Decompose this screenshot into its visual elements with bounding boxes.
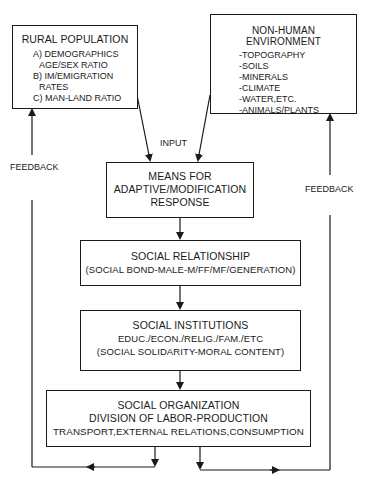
rural-item: A) DEMOGRAPHICS xyxy=(19,49,131,60)
feedback-label-right: FEEDBACK xyxy=(305,178,354,200)
rural-item: RATES xyxy=(19,82,131,93)
environment-item: -TOPOGRAPHY xyxy=(215,50,352,61)
means-line: MEANS FOR xyxy=(109,170,251,183)
rural-item: C) MAN-LAND RATIO xyxy=(19,93,131,104)
means-box: MEANS FOR ADAPTIVE/MODIFICATION RESPONSE xyxy=(106,162,254,218)
means-line: ADAPTIVE/MODIFICATION xyxy=(109,183,251,196)
non-human-environment-box: NON-HUMAN ENVIRONMENT -TOPOGRAPHY -SOILS… xyxy=(210,14,357,114)
input-arrow-environment xyxy=(198,95,210,160)
social-organization-line: TRANSPORT,EXTERNAL RELATIONS,CONSUMPTION xyxy=(49,425,308,438)
input-label: INPUT xyxy=(160,138,187,148)
environment-item: -ANIMALS/PLANTS xyxy=(215,105,352,116)
rural-item: B) IM/EMIGRATION xyxy=(19,71,131,82)
social-institutions-line: EDUC./ECON./RELIG./FAM./ETC xyxy=(83,332,298,345)
rural-population-box: RURAL POPULATION A) DEMOGRAPHICS AGE/SEX… xyxy=(12,25,138,109)
social-organization-line: DIVISION OF LABOR-PRODUCTION xyxy=(49,412,308,425)
environment-title: NON-HUMAN ENVIRONMENT xyxy=(215,25,352,47)
social-institutions-box: SOCIAL INSTITUTIONS EDUC./ECON./RELIG./F… xyxy=(80,310,301,371)
social-relationship-box: SOCIAL RELATIONSHIP (SOCIAL BOND-MALE-M/… xyxy=(80,240,301,286)
social-organization-line: SOCIAL ORGANIZATION xyxy=(49,399,308,412)
rural-population-title: RURAL POPULATION xyxy=(19,33,131,45)
social-relationship-line: SOCIAL RELATIONSHIP xyxy=(83,250,298,263)
environment-item: -MINERALS xyxy=(215,72,352,83)
environment-item: -WATER,ETC. xyxy=(215,94,352,105)
social-relationship-line: (SOCIAL BOND-MALE-M/FF/MF/GENERATION) xyxy=(83,263,298,276)
social-institutions-line: SOCIAL INSTITUTIONS xyxy=(83,319,298,332)
means-line: RESPONSE xyxy=(109,196,251,209)
social-institutions-line: (SOCIAL SOLIDARITY-MORAL CONTENT) xyxy=(83,345,298,358)
environment-item: -CLIMATE xyxy=(215,83,352,94)
input-arrow-population xyxy=(137,95,150,160)
social-organization-box: SOCIAL ORGANIZATION DIVISION OF LABOR-PR… xyxy=(46,390,311,447)
feedback-label-left: FEEDBACK xyxy=(10,156,59,178)
environment-item: -SOILS xyxy=(215,61,352,72)
rural-item: AGE/SEX RATIO xyxy=(19,60,131,71)
